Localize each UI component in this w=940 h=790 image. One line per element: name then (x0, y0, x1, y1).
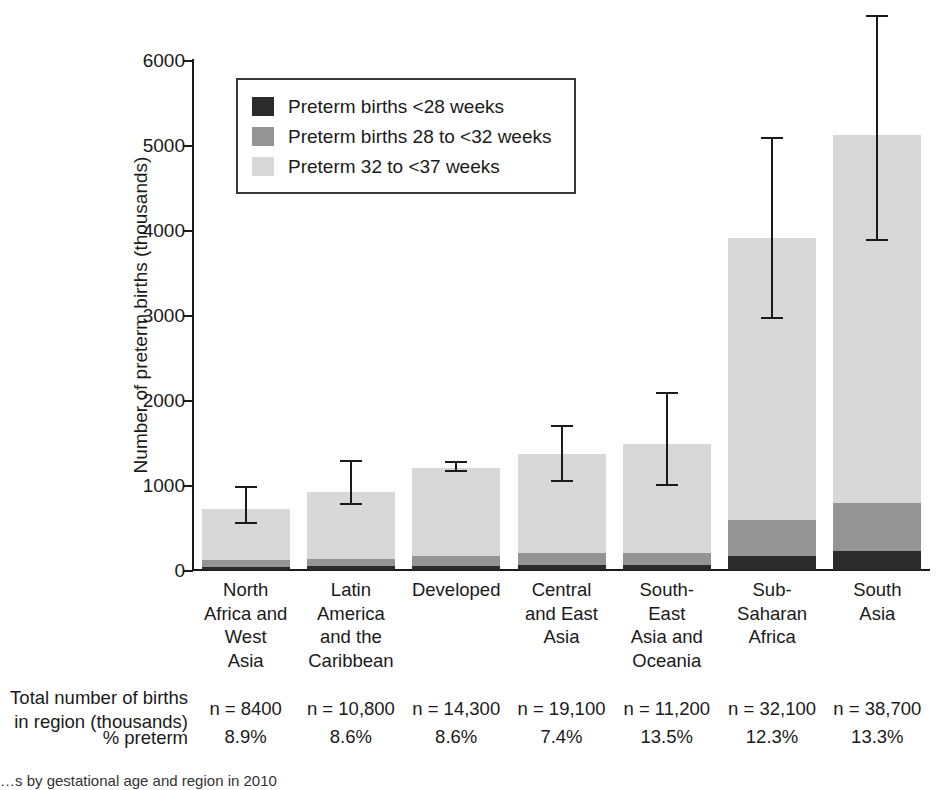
error-bar-line (245, 486, 247, 524)
error-bar-cap-upper (656, 392, 678, 394)
error-bar-line (350, 460, 352, 506)
bar-segment-28-to-32-weeks (518, 553, 606, 565)
bar-segment-32-to-37-weeks (412, 468, 500, 556)
table-cell: n = 8400 (193, 698, 298, 720)
bar-group[interactable] (833, 60, 921, 570)
bar-segment-28-to-32-weeks (307, 559, 395, 566)
legend-item-label: Preterm 32 to <37 weeks (288, 157, 500, 176)
error-bar-cap-upper (866, 15, 888, 17)
x-axis-label: South-EastAsia andOceania (614, 578, 719, 673)
stacked-bar[interactable] (412, 468, 500, 570)
error-bar-cap-lower (340, 503, 362, 505)
error-bar-line (666, 392, 668, 486)
bar-segment-lt28-weeks (623, 565, 711, 570)
bar-segment-lt28-weeks (202, 567, 290, 570)
error-bar-cap-lower (656, 484, 678, 486)
error-bar-cap-upper (551, 425, 573, 427)
bar-segment-lt28-weeks (518, 565, 606, 570)
legend-swatch-icon (252, 97, 274, 116)
y-tick-label: 3000 (143, 306, 185, 325)
x-axis-label: LatinAmericaand theCaribbean (298, 578, 403, 673)
error-bar-cap-lower (445, 470, 467, 472)
table-cell: 7.4% (509, 726, 614, 748)
x-axis-label: Sub-SaharanAfrica (719, 578, 824, 649)
table-cell: n = 10,800 (298, 698, 403, 720)
x-axis-label: NorthAfrica andWestAsia (193, 578, 298, 673)
bar-segment-lt28-weeks (307, 566, 395, 570)
bar-segment-28-to-32-weeks (728, 520, 816, 556)
table-cell: 12.3% (719, 726, 824, 748)
y-tick-label: 4000 (143, 221, 185, 240)
legend-item[interactable]: Preterm 32 to <37 weeks (252, 151, 552, 181)
x-axis-label: SouthAsia (825, 578, 930, 625)
bar-segment-28-to-32-weeks (202, 560, 290, 566)
bar-segment-lt28-weeks (833, 551, 921, 570)
bar-segment-28-to-32-weeks (833, 503, 921, 551)
error-bar-line (771, 137, 773, 320)
error-bar-line (561, 425, 563, 483)
bar-segment-28-to-32-weeks (623, 553, 711, 565)
legend-item-label: Preterm births 28 to <32 weeks (288, 127, 552, 146)
error-bar-cap-lower (235, 522, 257, 524)
bar-group[interactable] (728, 60, 816, 570)
bar-segment-lt28-weeks (412, 566, 500, 570)
bar-segment-28-to-32-weeks (412, 556, 500, 565)
error-bar-cap-upper (761, 137, 783, 139)
y-tick-label: 0 (174, 561, 185, 580)
x-axis-label: Developed (404, 578, 509, 602)
figure-caption: …s by gestational age and region in 2010 (0, 772, 277, 789)
table-cell: n = 14,300 (404, 698, 509, 720)
error-bar-line (876, 15, 878, 241)
error-bar-cap-upper (445, 461, 467, 463)
y-tick-label: 6000 (143, 51, 185, 70)
table-cell: n = 11,200 (614, 698, 719, 720)
error-bar-cap-lower (761, 317, 783, 319)
legend-item-label: Preterm births <28 weeks (288, 97, 504, 116)
bar-segment-lt28-weeks (728, 556, 816, 570)
legend-item[interactable]: Preterm births <28 weeks (252, 91, 552, 121)
table-cell: n = 38,700 (825, 698, 930, 720)
table-cell: 8.6% (404, 726, 509, 748)
table-row-label: % preterm (0, 726, 188, 750)
y-tick-label: 5000 (143, 136, 185, 155)
x-axis-label: Centraland EastAsia (509, 578, 614, 649)
table-cell: n = 19,100 (509, 698, 614, 720)
bar-group[interactable] (623, 60, 711, 570)
legend-item[interactable]: Preterm births 28 to <32 weeks (252, 121, 552, 151)
error-bar-cap-lower (551, 480, 573, 482)
legend-swatch-icon (252, 127, 274, 146)
error-bar-cap-lower (866, 239, 888, 241)
y-tick-label: 2000 (143, 391, 185, 410)
table-cell: 8.6% (298, 726, 403, 748)
y-tick-label: 1000 (143, 476, 185, 495)
error-bar-cap-upper (235, 486, 257, 488)
error-bar-cap-upper (340, 460, 362, 462)
table-cell: n = 32,100 (719, 698, 824, 720)
table-cell: 13.5% (614, 726, 719, 748)
table-cell: 13.3% (825, 726, 930, 748)
preterm-births-chart: Number of preterm births (thousands) 600… (0, 0, 940, 790)
chart-legend: Preterm births <28 weeksPreterm births 2… (236, 78, 576, 194)
legend-swatch-icon (252, 157, 274, 176)
table-cell: 8.9% (193, 726, 298, 748)
